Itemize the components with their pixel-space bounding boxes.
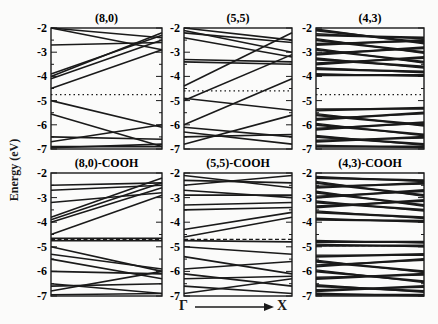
panel-55: -2-3-4-5-6-7(5,5) <box>170 11 292 156</box>
y-axis-label: Energy (eV) <box>7 139 22 201</box>
y-tick-label: -5 <box>37 94 47 108</box>
y-tick-label: -4 <box>302 215 312 229</box>
gamma-point-label: Γ <box>179 298 188 314</box>
y-tick-label: -3 <box>170 45 180 59</box>
y-tick-label: -4 <box>302 69 312 83</box>
panel-43: -2-3-4-5-6-7(4,3) <box>302 11 424 156</box>
panel-80: -2-3-4-5-6-7(8,0) <box>37 11 162 156</box>
panel-title: (8,0)-COOH <box>75 156 139 170</box>
y-tick-label: -2 <box>170 166 180 180</box>
panel-43-cooh: -2-3-4-5-6-7(4,3)-COOH <box>302 156 424 303</box>
y-tick-label: -7 <box>37 142 47 156</box>
y-tick-label: -2 <box>37 166 47 180</box>
y-tick-label: -4 <box>170 69 180 83</box>
y-tick-label: -5 <box>170 94 180 108</box>
panel-title: (5,5)-COOH <box>206 156 270 170</box>
y-tick-label: -3 <box>302 191 312 205</box>
y-tick-label: -4 <box>37 69 47 83</box>
panel-80-cooh: -2-3-4-5-6-7(8,0)-COOH <box>37 156 162 303</box>
y-tick-label: -6 <box>302 264 312 278</box>
panel-title: (5,5) <box>227 11 250 25</box>
y-tick-label: -6 <box>37 118 47 132</box>
y-tick-label: -3 <box>37 45 47 59</box>
y-tick-label: -2 <box>37 21 47 35</box>
panel-title: (4,3)-COOH <box>338 156 402 170</box>
y-tick-label: -3 <box>302 45 312 59</box>
y-tick-label: -5 <box>37 240 47 254</box>
panel-title: (8,0) <box>95 11 118 25</box>
y-tick-label: -7 <box>302 289 312 303</box>
y-tick-label: -7 <box>170 142 180 156</box>
y-tick-label: -4 <box>170 215 180 229</box>
y-tick-label: -6 <box>170 264 180 278</box>
band-structure-figure: -2-3-4-5-6-7(8,0)-2-3-4-5-6-7(5,5)-2-3-4… <box>0 0 438 324</box>
y-tick-label: -3 <box>37 191 47 205</box>
y-tick-label: -5 <box>170 240 180 254</box>
y-tick-label: -6 <box>37 264 47 278</box>
y-tick-label: -6 <box>170 118 180 132</box>
panel-55-cooh: -2-3-4-5-6-7(5,5)-COOH <box>170 156 292 303</box>
panel-title: (4,3) <box>359 11 382 25</box>
y-tick-label: -5 <box>302 240 312 254</box>
k-path-arrow <box>195 303 274 311</box>
y-tick-label: -2 <box>302 166 312 180</box>
x-point-label: X <box>277 298 287 314</box>
y-tick-label: -5 <box>302 94 312 108</box>
y-tick-label: -7 <box>37 289 47 303</box>
y-tick-label: -4 <box>37 215 47 229</box>
y-tick-label: -6 <box>302 118 312 132</box>
y-tick-label: -2 <box>302 21 312 35</box>
y-tick-label: -3 <box>170 191 180 205</box>
y-tick-label: -7 <box>302 142 312 156</box>
y-tick-label: -2 <box>170 21 180 35</box>
